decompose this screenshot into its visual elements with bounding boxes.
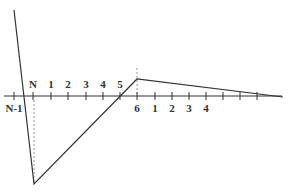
tick-label: N [29, 78, 37, 90]
upper-tick-labels: N12345 [29, 78, 123, 90]
tick-label: 1 [152, 102, 158, 114]
tick-label: 3 [186, 102, 192, 114]
tick-label: 2 [169, 102, 175, 114]
tick-label: 6 [134, 102, 140, 114]
tick-label: N-1 [5, 102, 22, 114]
tick-label: 1 [48, 78, 54, 90]
trajectory-polyline [14, 10, 283, 184]
tick-label: 5 [117, 78, 123, 90]
tick-label: 4 [100, 78, 106, 90]
tick-label: 2 [65, 78, 71, 90]
tick-label: 3 [83, 78, 89, 90]
trajectory-line [14, 10, 283, 184]
lower-tick-labels: N-161234 [5, 102, 209, 114]
tick-label: 4 [203, 102, 209, 114]
diagram-canvas: N12345 N-161234 [0, 0, 293, 191]
